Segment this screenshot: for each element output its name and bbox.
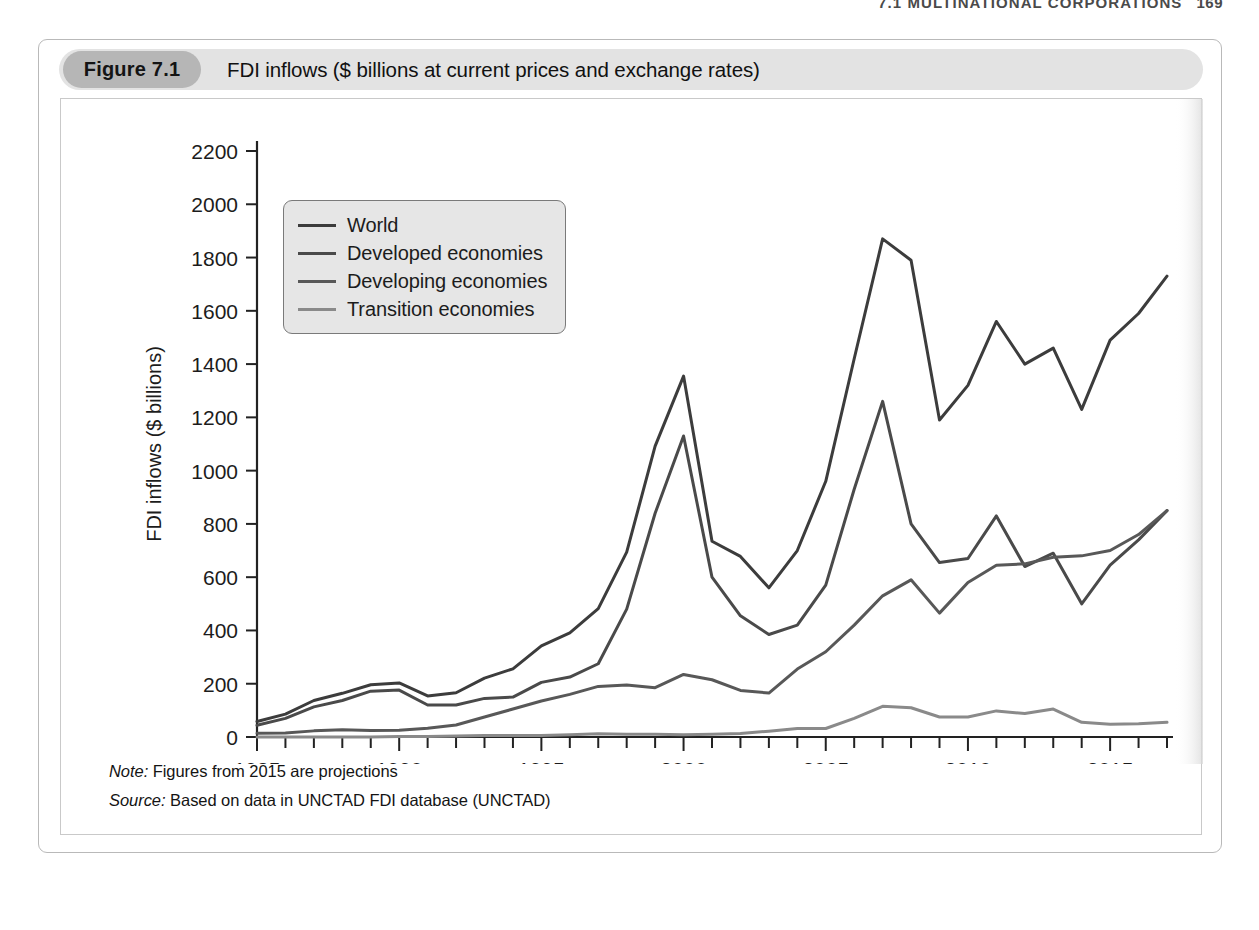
figure-footnotes: Note: Figures from 2015 are projections … — [109, 762, 1109, 820]
figure-source: Source: Based on data in UNCTAD FDI data… — [109, 791, 1109, 810]
legend-label: Developed economies — [347, 242, 543, 265]
chart-legend: WorldDeveloped economiesDeveloping econo… — [283, 200, 566, 334]
y-axis-tick-label: 1200 — [191, 406, 238, 429]
legend-line-swatch-icon — [298, 280, 336, 283]
legend-item-1: Developed economies — [298, 239, 547, 267]
y-axis-tick-label: 1000 — [191, 460, 238, 483]
figure-title-bar: Figure 7.1 FDI inflows ($ billions at cu… — [59, 49, 1203, 90]
page-running-header: 7.1 MULTINATIONAL CORPORATIONS 169 — [878, 0, 1223, 12]
legend-line-swatch-icon — [298, 308, 336, 311]
y-axis-tick-label: 1800 — [191, 247, 238, 270]
line-chart: 0200400600800100012001400160018002000220… — [61, 99, 1203, 764]
note-text: Figures from 2015 are projections — [148, 762, 398, 780]
legend-item-2: Developing economies — [298, 267, 547, 295]
legend-line-swatch-icon — [298, 252, 336, 255]
legend-label: Transition economies — [347, 298, 534, 321]
header-page-number: 169 — [1196, 0, 1223, 11]
y-axis-tick-label: 600 — [203, 566, 238, 589]
legend-item-0: World — [298, 211, 547, 239]
y-axis-tick-label: 1600 — [191, 300, 238, 323]
series-line-developing-economies — [257, 511, 1167, 734]
series-line-transition-economies — [257, 706, 1167, 737]
legend-label: Developing economies — [347, 270, 547, 293]
figure-note: Note: Figures from 2015 are projections — [109, 762, 1109, 781]
y-axis-tick-label: 1400 — [191, 353, 238, 376]
figure-number-badge: Figure 7.1 — [63, 51, 201, 88]
figure-card: Figure 7.1 FDI inflows ($ billions at cu… — [38, 39, 1222, 853]
y-axis-tick-label: 200 — [203, 673, 238, 696]
page-edge-shading — [1175, 99, 1203, 764]
legend-line-swatch-icon — [298, 224, 336, 227]
y-axis-tick-label: 0 — [226, 726, 238, 749]
y-axis-tick-label: 800 — [203, 513, 238, 536]
source-text: Based on data in UNCTAD FDI database (UN… — [166, 791, 551, 809]
chart-panel: 0200400600800100012001400160018002000220… — [60, 98, 1202, 835]
source-lead: Source: — [109, 791, 166, 809]
y-axis-tick-label: 400 — [203, 619, 238, 642]
y-axis-tick-label: 2000 — [191, 193, 238, 216]
y-axis-title: FDI inflows ($ billions) — [143, 346, 165, 542]
y-axis-tick-label: 2200 — [191, 140, 238, 163]
note-lead: Note: — [109, 762, 148, 780]
figure-caption: FDI inflows ($ billions at current price… — [227, 58, 760, 82]
header-section-title: 7.1 MULTINATIONAL CORPORATIONS — [878, 0, 1182, 11]
legend-item-3: Transition economies — [298, 295, 547, 323]
legend-label: World — [347, 214, 398, 237]
chart-plot-surface: 0200400600800100012001400160018002000220… — [61, 99, 1203, 764]
